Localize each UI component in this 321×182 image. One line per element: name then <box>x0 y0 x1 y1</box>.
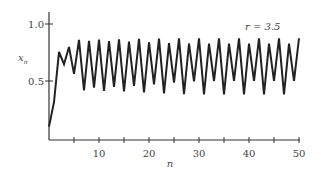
y-tick-label: 1.0 <box>28 19 44 30</box>
data-line <box>49 38 299 126</box>
y-axis-label: xn <box>18 52 28 65</box>
annotation-r-value: r = 3.5 <box>245 21 280 32</box>
x-tick-label: 40 <box>243 148 256 159</box>
x-tick-label: 10 <box>93 148 106 159</box>
x-tick-label: 50 <box>293 148 306 159</box>
x-axis-label: n <box>167 158 173 169</box>
y-tick-label: 0.5 <box>28 76 44 87</box>
x-tick-label: 20 <box>143 148 156 159</box>
x-tick-label: 30 <box>193 148 206 159</box>
chart: 1.0 0.5 10 20 30 40 50 n xn r = 3.5 <box>0 0 321 182</box>
